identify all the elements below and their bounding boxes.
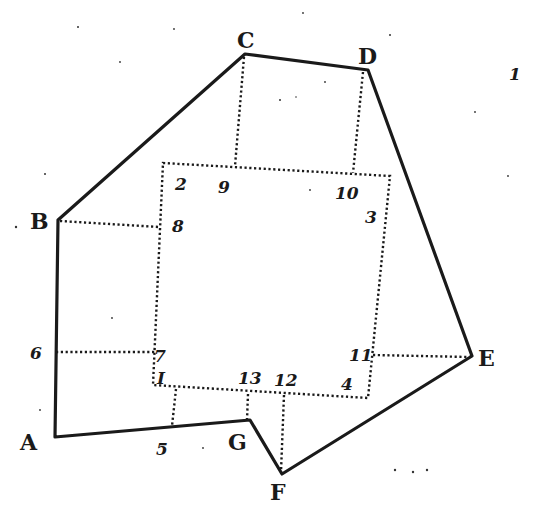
point-label-10: 10 — [335, 183, 359, 203]
point-label-3: 3 — [365, 207, 377, 227]
offset-G-13 — [247, 394, 248, 420]
vertex-label-B: B — [30, 208, 49, 234]
point-label-1: I — [156, 368, 166, 388]
offset-B-8 — [60, 221, 159, 227]
point-label-12: 12 — [274, 370, 298, 390]
stray-mark: 1 — [509, 64, 521, 84]
offset-F-12 — [281, 395, 284, 472]
outer-polygon — [55, 54, 472, 474]
point-label-4: 4 — [341, 374, 353, 394]
paper-specks — [15, 12, 509, 473]
point-label-13: 13 — [238, 368, 262, 388]
vertex-label-F: F — [270, 479, 286, 505]
offset-D-10 — [353, 72, 363, 173]
vertex-label-E: E — [478, 345, 495, 371]
offset-5 — [172, 389, 176, 426]
point-label-2: 2 — [174, 174, 187, 194]
vertex-label-A: A — [19, 429, 38, 455]
point-label-7: 7 — [154, 346, 166, 366]
offset-C-9 — [235, 57, 244, 166]
vertex-label-G: G — [228, 429, 247, 455]
point-label-6: 6 — [30, 343, 42, 363]
vertex-label-C: C — [237, 27, 255, 53]
vertex-label-D: D — [358, 43, 377, 69]
survey-diagram: A B C D E F G I 2 3 4 5 6 7 8 9 10 11 12… — [0, 0, 534, 512]
point-label-8: 8 — [171, 216, 184, 236]
point-label-11: 11 — [349, 345, 373, 365]
point-label-9: 9 — [218, 177, 230, 197]
point-label-5: 5 — [156, 439, 168, 459]
offset-E-11 — [373, 355, 470, 357]
